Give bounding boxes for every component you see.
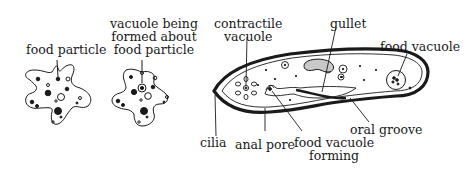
- label-food-vacuole: food vacuole: [380, 40, 460, 53]
- amoeba-1-drawing: [26, 60, 91, 124]
- label-text: food particle: [26, 42, 107, 57]
- label-oral-groove: oral groove: [350, 123, 422, 136]
- biology-diagram: food particle vacuole being formed about…: [0, 0, 470, 171]
- label-line: forming: [294, 149, 374, 162]
- label-food-particle: food particle: [26, 43, 107, 56]
- label-food-vacuole-forming: food vacuole forming: [294, 136, 374, 162]
- label-text: gullet: [330, 16, 366, 31]
- label-anal-pore: anal pore: [235, 138, 295, 151]
- label-cilia: cilia: [200, 136, 226, 149]
- amoeba-2-drawing: [112, 60, 169, 126]
- label-gullet: gullet: [330, 17, 366, 30]
- label-text: food vacuole: [380, 39, 460, 54]
- label-text: oral groove: [350, 122, 422, 137]
- label-contractile-vacuole: contractile vacuole: [214, 17, 282, 43]
- label-vacuole-being-formed: vacuole being formed about food particle: [110, 17, 198, 56]
- label-line: food particle: [110, 43, 198, 56]
- label-text: anal pore: [235, 137, 295, 152]
- label-line: vacuole: [214, 30, 282, 43]
- label-text: cilia: [200, 135, 226, 150]
